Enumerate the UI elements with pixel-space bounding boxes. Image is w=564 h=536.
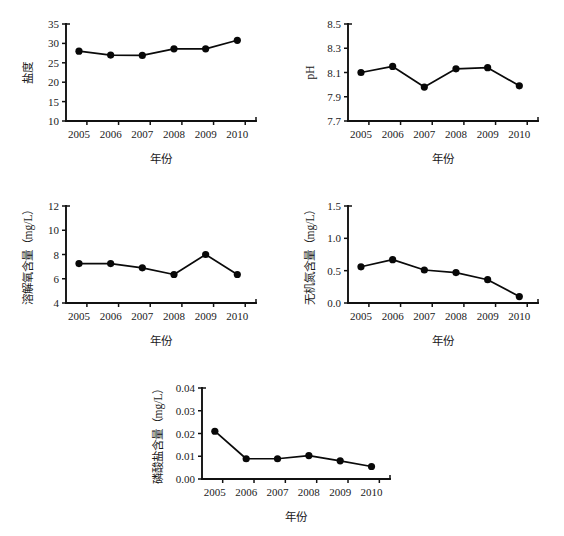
- axes-group: [348, 24, 538, 121]
- series-line: [361, 260, 519, 297]
- chart-svg-dissolved-oxygen: 4681012200520062007200820092010溶解氧含量（mg/…: [18, 196, 268, 361]
- data-point-marker: [234, 37, 241, 44]
- data-point-marker: [357, 69, 364, 76]
- x-tick-label: 2007: [131, 128, 154, 140]
- y-axis-title: 溶解氧含量（mg/L）: [21, 204, 35, 306]
- data-point-marker: [170, 45, 177, 52]
- chart-panel-salinity: 101520253035200520062007200820092010盐度年份: [18, 14, 268, 179]
- y-tick-label: 0.03: [176, 405, 196, 417]
- x-tick-label: 2009: [195, 310, 218, 322]
- data-point-marker: [484, 64, 491, 71]
- x-tick-label: 2005: [350, 128, 373, 140]
- data-point-marker: [516, 293, 523, 300]
- data-point-marker: [139, 52, 146, 59]
- data-point-marker: [202, 251, 209, 258]
- x-tick-label: 2008: [163, 128, 186, 140]
- y-tick-label: 4: [54, 297, 60, 309]
- x-axis-title: 年份: [150, 334, 173, 347]
- x-tick-label: 2008: [445, 128, 468, 140]
- data-point-marker: [243, 455, 250, 462]
- x-tick-label: 2009: [195, 128, 218, 140]
- x-tick-label: 2010: [226, 128, 249, 140]
- x-tick-label: 2006: [382, 310, 405, 322]
- y-tick-label: 8: [54, 249, 60, 261]
- y-tick-group: 0.000.010.020.030.04: [176, 382, 202, 485]
- x-tick-label: 2010: [508, 310, 531, 322]
- y-tick-label: 35: [48, 18, 60, 30]
- series-line: [79, 40, 237, 55]
- data-point-marker: [305, 452, 312, 459]
- data-point-marker: [452, 65, 459, 72]
- y-tick-label: 8.3: [327, 42, 341, 54]
- x-tick-label: 2008: [163, 310, 186, 322]
- data-point-marker: [139, 264, 146, 271]
- series-line: [215, 431, 372, 466]
- data-point-marker: [211, 428, 218, 435]
- data-point-marker: [484, 276, 491, 283]
- data-point-marker: [389, 63, 396, 70]
- x-tick-label: 2007: [413, 310, 436, 322]
- data-point-marker: [516, 82, 523, 89]
- data-point-marker: [107, 260, 114, 267]
- series-line: [361, 66, 519, 87]
- y-tick-label: 6: [54, 273, 60, 285]
- y-tick-label: 30: [48, 37, 60, 49]
- chart-panel-inorganic-nitrogen: 0.00.51.01.5200520062007200820092010无机氮含…: [300, 196, 550, 361]
- x-tick-label: 2006: [382, 128, 405, 140]
- y-tick-group: 7.77.98.18.38.5: [327, 18, 348, 127]
- x-tick-label: 2009: [477, 310, 500, 322]
- chart-panel-dissolved-oxygen: 4681012200520062007200820092010溶解氧含量（mg/…: [18, 196, 268, 361]
- y-tick-label: 12: [48, 200, 59, 212]
- data-point-marker: [274, 455, 281, 462]
- x-tick-label: 2006: [100, 128, 123, 140]
- x-tick-label: 2008: [298, 486, 321, 498]
- series-marker-group: [75, 251, 241, 278]
- x-axis-title: 年份: [432, 152, 455, 165]
- series-line: [79, 255, 237, 275]
- x-tick-label: 2009: [329, 486, 352, 498]
- y-tick-label: 0.5: [327, 265, 341, 277]
- chart-panel-ph: 7.77.98.18.38.5200520062007200820092010p…: [300, 14, 550, 179]
- data-point-marker: [357, 263, 364, 270]
- x-tick-group: 200520062007200820092010: [68, 121, 249, 140]
- x-tick-label: 2005: [204, 486, 227, 498]
- x-tick-label: 2007: [413, 128, 436, 140]
- series-marker-group: [357, 63, 523, 91]
- x-tick-group: 200520062007200820092010: [68, 303, 249, 322]
- figure-sheet: 101520253035200520062007200820092010盐度年份…: [0, 0, 564, 536]
- x-tick-label: 2005: [68, 310, 91, 322]
- axes-group: [66, 24, 256, 121]
- y-tick-label: 10: [48, 115, 60, 127]
- y-tick-label: 10: [48, 224, 60, 236]
- x-tick-group: 200520062007200820092010: [350, 121, 531, 140]
- chart-svg-inorganic-nitrogen: 0.00.51.01.5200520062007200820092010无机氮含…: [300, 196, 550, 361]
- y-tick-label: 1.5: [327, 200, 341, 212]
- data-point-marker: [75, 48, 82, 55]
- data-point-marker: [421, 266, 428, 273]
- y-tick-label: 7.7: [327, 115, 341, 127]
- x-axis-title: 年份: [285, 510, 308, 523]
- y-tick-group: 4681012: [48, 200, 66, 309]
- data-point-marker: [368, 463, 375, 470]
- y-tick-label: 8.1: [327, 67, 341, 79]
- y-tick-label: 0.00: [176, 473, 196, 485]
- y-tick-group: 0.00.51.01.5: [327, 200, 348, 309]
- y-tick-label: 0.0: [327, 297, 341, 309]
- data-point-marker: [421, 83, 428, 90]
- chart-panel-phosphate: 0.000.010.020.030.0420052006200720082009…: [146, 378, 402, 533]
- x-tick-label: 2008: [445, 310, 468, 322]
- x-tick-label: 2009: [477, 128, 500, 140]
- axes-group: [348, 206, 538, 303]
- x-tick-label: 2010: [508, 128, 531, 140]
- y-tick-label: 1.0: [327, 232, 341, 244]
- y-tick-label: 0.01: [176, 450, 195, 462]
- y-tick-label: 8.5: [327, 18, 341, 30]
- data-point-marker: [170, 271, 177, 278]
- y-tick-label: 25: [48, 57, 60, 69]
- y-axis-title: pH: [304, 65, 317, 79]
- data-point-marker: [452, 269, 459, 276]
- chart-svg-phosphate: 0.000.010.020.030.0420052006200720082009…: [146, 378, 402, 533]
- data-point-marker: [234, 271, 241, 278]
- x-axis-title: 年份: [150, 152, 173, 165]
- x-tick-label: 2005: [68, 128, 91, 140]
